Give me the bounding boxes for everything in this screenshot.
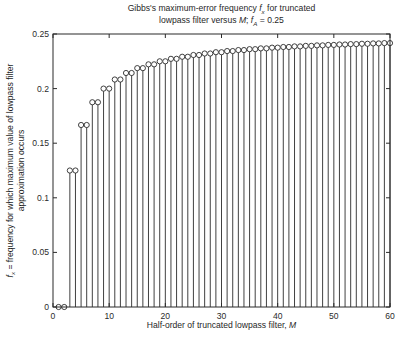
stem-marker (168, 56, 173, 61)
stem-marker (118, 77, 123, 82)
title-text: = 0.25 (257, 15, 284, 25)
stem-marker (275, 45, 280, 50)
stem-marker (129, 70, 134, 75)
stem-marker (337, 42, 342, 47)
x-tick-label: 10 (104, 311, 114, 321)
y-axis-label: fx = frequency for which maximum value o… (5, 26, 28, 316)
stem-marker (174, 56, 179, 61)
M-symbol: M (289, 320, 296, 330)
stem-marker (241, 47, 246, 52)
y-tick-label: 0.2 (37, 84, 49, 94)
stem-marker (90, 100, 95, 105)
chart-title: Gibbs's maximum-error frequency fx for t… (53, 3, 390, 26)
title-text: lowpass filter versus (159, 15, 239, 25)
stem-marker (107, 86, 112, 91)
stem-marker (152, 62, 157, 67)
stem-marker (314, 43, 319, 48)
x-tick-label: 60 (385, 311, 395, 321)
stem-marker (219, 50, 224, 55)
stem-marker (247, 47, 252, 52)
stem-marker (196, 52, 201, 57)
stem-marker (180, 54, 185, 59)
stem-marker (230, 48, 235, 53)
stem-marker (225, 48, 230, 53)
stem-marker (236, 47, 241, 52)
stem-marker (269, 45, 274, 50)
y-axis-label-text: = frequency for which maximum value of l… (5, 64, 15, 272)
y-axis-label-line2: approximation occurs (16, 26, 27, 316)
stem-marker (371, 41, 376, 46)
stem-marker (292, 44, 297, 49)
figure-canvas: 010203040506000.050.10.150.20.25 Gibbs's… (0, 0, 408, 342)
chart-title-line1: Gibbs's maximum-error frequency fx for t… (53, 3, 390, 15)
stem-marker (354, 42, 359, 47)
stem-marker (135, 66, 140, 71)
stem-marker (213, 50, 218, 55)
stem-marker (286, 44, 291, 49)
stem-marker (140, 66, 145, 71)
x-tick-label: 30 (217, 311, 227, 321)
stem-marker (73, 168, 78, 173)
x-tick-label: 40 (273, 311, 283, 321)
stem-marker (320, 43, 325, 48)
stem-marker (376, 41, 381, 46)
x-axis-label-text: Half-order of truncated lowpass filter, (147, 320, 289, 330)
chart-title-line2: lowpass filter versus M; fA = 0.25 (53, 15, 390, 27)
x-tick-label: 50 (329, 311, 339, 321)
title-text: Gibbs's maximum-error frequency (128, 3, 260, 13)
stem-marker (95, 100, 100, 105)
M-symbol: M (239, 15, 246, 25)
stem-marker (359, 41, 364, 46)
stem-marker (264, 46, 269, 51)
stem-marker (157, 59, 162, 64)
stem-marker (281, 44, 286, 49)
stem-plot: 010203040506000.050.10.150.20.25 (0, 0, 408, 342)
y-tick-label: 0.05 (32, 247, 49, 257)
stem-marker (253, 47, 258, 52)
stem-marker (101, 86, 106, 91)
y-tick-label: 0.25 (32, 29, 49, 39)
y-tick-label: 0 (44, 302, 49, 312)
stem-marker (331, 42, 336, 47)
stem-marker (298, 44, 303, 49)
stem-marker (202, 51, 207, 56)
y-tick-label: 0.15 (32, 138, 49, 148)
stem-marker (146, 62, 151, 67)
fx-subscript: x (9, 272, 16, 275)
y-tick-label: 0.1 (37, 193, 49, 203)
y-axis-label-line1: fx = frequency for which maximum value o… (5, 26, 16, 316)
stem-marker (365, 41, 370, 46)
stem-marker (191, 52, 196, 57)
stem-marker (258, 46, 263, 51)
x-axis-label: Half-order of truncated lowpass filter, … (53, 320, 390, 330)
stem-marker (163, 59, 168, 64)
stem-marker (382, 40, 387, 45)
title-text: for truncated (265, 3, 316, 13)
stem-marker (348, 42, 353, 47)
stem-marker (309, 43, 314, 48)
stem-marker (78, 122, 83, 127)
stem-marker (303, 43, 308, 48)
x-tick-label: 20 (161, 311, 171, 321)
x-tick-label: 0 (51, 311, 56, 321)
stem-marker (185, 54, 190, 59)
stem-marker (67, 168, 72, 173)
stem-marker (123, 70, 128, 75)
stem-marker (342, 42, 347, 47)
stem-marker (112, 77, 117, 82)
stem-marker (84, 122, 89, 127)
stem-marker (208, 51, 213, 56)
stem-marker (326, 42, 331, 47)
